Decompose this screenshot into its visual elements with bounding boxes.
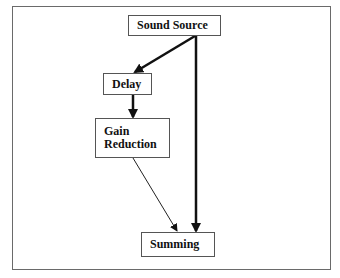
node-sound-source-label: Sound Source <box>137 19 208 32</box>
node-gain-reduction: Gain Reduction <box>95 118 170 158</box>
node-summing-label: Summing <box>150 238 199 251</box>
node-gain-reduction-label: Gain Reduction <box>104 125 157 151</box>
node-delay-label: Delay <box>112 78 141 91</box>
node-summing: Summing <box>141 232 215 257</box>
edge-source-to-delay <box>135 36 195 72</box>
edge-gain-to-summing <box>133 158 177 231</box>
node-delay: Delay <box>103 73 152 95</box>
node-sound-source: Sound Source <box>128 15 221 36</box>
